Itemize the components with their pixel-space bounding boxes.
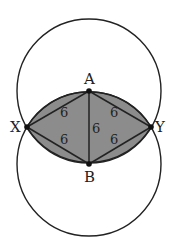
label-a: A xyxy=(83,70,95,88)
length-label-ay: 6 xyxy=(110,105,118,120)
length-label-xa: 6 xyxy=(60,105,68,120)
point-x xyxy=(24,124,30,130)
length-label-by: 6 xyxy=(110,132,118,147)
point-y xyxy=(148,124,154,130)
diagram-canvas: A B X Y 6 6 6 6 6 xyxy=(0,0,174,246)
length-label-ab: 6 xyxy=(92,121,100,136)
point-b xyxy=(86,161,92,167)
label-x: X xyxy=(10,118,21,136)
length-label-xb: 6 xyxy=(60,132,68,147)
label-b: B xyxy=(84,168,95,186)
label-y: Y xyxy=(154,118,166,136)
point-a xyxy=(86,88,92,94)
